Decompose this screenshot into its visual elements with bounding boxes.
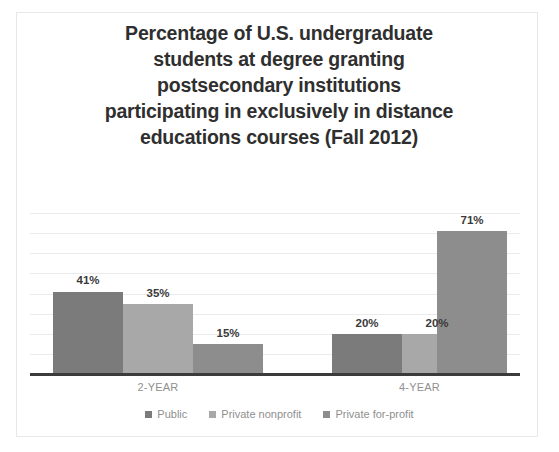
chart-canvas: Percentage of U.S. undergraduate student… (0, 0, 559, 452)
legend-swatch-icon (145, 411, 152, 418)
chart-title-line-2: students at degree granting (34, 46, 524, 72)
bar-label-4-year-private-nonprofit: 20% (402, 317, 472, 329)
bar-label-2-year-public: 41% (53, 274, 123, 286)
chart-title-line-1: Percentage of U.S. undergraduate (34, 20, 524, 46)
bar-2-year-private-nonprofit[interactable] (123, 304, 193, 374)
x-tick-label-2-year: 2-YEAR (98, 381, 218, 393)
legend-swatch-icon (323, 411, 330, 418)
x-tick-label-4-year: 4-YEAR (360, 381, 480, 393)
bar-4-year-public[interactable] (332, 334, 402, 374)
legend-swatch-icon (209, 411, 216, 418)
legend-label: Public (157, 408, 187, 420)
bar-label-2-year-private-for-profit: 15% (193, 327, 263, 339)
x-axis-line (30, 373, 520, 376)
bar-2-year-public[interactable] (53, 292, 123, 375)
bar-4-year-private-for-profit[interactable] (437, 231, 507, 374)
legend-label: Private for-profit (335, 408, 413, 420)
legend-item-private-nonprofit[interactable]: Private nonprofit (209, 408, 301, 420)
bar-label-2-year-private-nonprofit: 35% (123, 287, 193, 299)
bar-2-year-private-for-profit[interactable] (193, 344, 263, 374)
legend-item-public[interactable]: Public (145, 408, 187, 420)
plot-area (30, 213, 520, 374)
legend-label: Private nonprofit (221, 408, 301, 420)
chart-title: Percentage of U.S. undergraduate student… (34, 20, 524, 150)
chart-title-line-5: educations courses (Fall 2012) (34, 124, 524, 150)
legend-item-private-for-profit[interactable]: Private for-profit (323, 408, 413, 420)
chart-title-line-4: participating in exclusively in distance (34, 98, 524, 124)
bar-label-4-year-public: 20% (332, 317, 402, 329)
chart-legend: PublicPrivate nonprofitPrivate for-profi… (0, 408, 559, 420)
bar-label-4-year-private-for-profit: 71% (437, 214, 507, 226)
chart-title-line-3: postsecondary institutions (34, 72, 524, 98)
